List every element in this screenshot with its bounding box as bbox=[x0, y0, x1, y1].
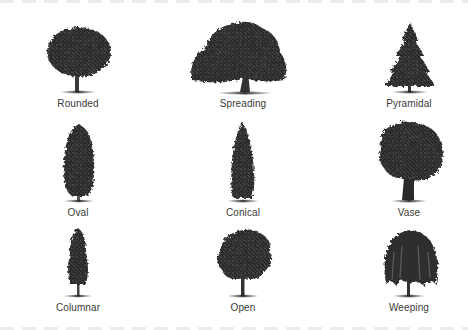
tree-open-icon bbox=[217, 229, 271, 297]
tree-pyramidal-icon bbox=[385, 22, 435, 93]
tree-label-oval: Oval bbox=[18, 207, 138, 218]
tree-vase-icon bbox=[379, 121, 443, 202]
tree-spreading-icon bbox=[191, 22, 286, 95]
tree-label-rounded: Rounded bbox=[18, 98, 138, 109]
tree-weeping-icon bbox=[384, 230, 437, 297]
tree-label-columnar: Columnar bbox=[18, 302, 138, 313]
tree-conical-icon bbox=[227, 121, 259, 202]
tree-columnar-icon bbox=[63, 228, 93, 297]
tree-label-pyramidal: Pyramidal bbox=[349, 98, 468, 109]
tree-label-weeping: Weeping bbox=[349, 302, 468, 313]
tree-label-spreading: Spreading bbox=[183, 98, 303, 109]
tree-oval-icon bbox=[63, 124, 95, 202]
tree-shapes-diagram bbox=[0, 0, 468, 330]
tree-label-vase: Vase bbox=[349, 207, 468, 218]
tree-label-open: Open bbox=[183, 302, 303, 313]
tree-label-conical: Conical bbox=[183, 207, 303, 218]
tree-rounded-icon bbox=[47, 27, 111, 93]
